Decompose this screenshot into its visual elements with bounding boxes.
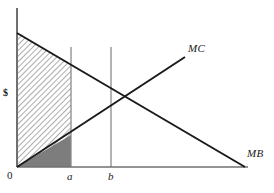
mb-curve-label: MB (247, 148, 263, 159)
x-tick-label-a: a (67, 171, 73, 182)
y-axis-label: $ (3, 88, 8, 98)
mc-curve-label: MC (188, 43, 205, 54)
economics-diagram: $ 0 a b MC MB (0, 0, 274, 193)
diagram-canvas (0, 0, 274, 193)
x-tick-label-b: b (108, 171, 114, 182)
origin-label: 0 (7, 170, 13, 181)
